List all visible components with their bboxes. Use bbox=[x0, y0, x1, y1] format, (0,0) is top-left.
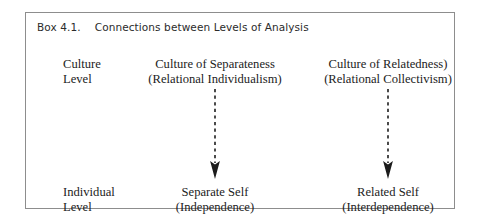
row-label-individual-line2: Level bbox=[63, 200, 115, 215]
cell-related-self-line1: Related Self bbox=[342, 185, 434, 200]
arrow-separateness-down bbox=[209, 89, 222, 180]
cell-separate-self-line2: (Independence) bbox=[176, 200, 254, 215]
cell-related-self-line2: (Interdependence) bbox=[342, 200, 434, 215]
cell-related-self: Related Self (Interdependence) bbox=[342, 185, 434, 214]
cell-separate-self: Separate Self (Independence) bbox=[176, 185, 254, 214]
row-label-culture-line2: Level bbox=[63, 72, 101, 87]
row-label-individual-level: Individual Level bbox=[63, 185, 115, 214]
cell-culture-relatedness-line2: (Relational Collectivism) bbox=[324, 72, 452, 87]
box-title: Box 4.1.Connections between Levels of An… bbox=[37, 21, 309, 34]
row-label-individual-line1: Individual bbox=[63, 185, 115, 200]
cell-culture-separateness-line1: Culture of Separateness bbox=[148, 57, 281, 72]
cell-culture-separateness-line2: (Relational Individualism) bbox=[148, 72, 281, 87]
cell-culture-separateness: Culture of Separateness (Relational Indi… bbox=[148, 57, 281, 86]
row-label-culture-level: Culture Level bbox=[63, 57, 101, 86]
cell-separate-self-line1: Separate Self bbox=[176, 185, 254, 200]
box-title-text: Connections between Levels of Analysis bbox=[95, 21, 309, 33]
cell-culture-relatedness-line1: Culture of Relatedness) bbox=[324, 57, 452, 72]
arrow-relatedness-down bbox=[382, 89, 395, 180]
row-label-culture-line1: Culture bbox=[63, 57, 101, 72]
figure-box: Box 4.1.Connections between Levels of An… bbox=[25, 12, 455, 209]
box-title-number: Box 4.1. bbox=[37, 21, 81, 33]
cell-culture-relatedness: Culture of Relatedness) (Relational Coll… bbox=[324, 57, 452, 86]
